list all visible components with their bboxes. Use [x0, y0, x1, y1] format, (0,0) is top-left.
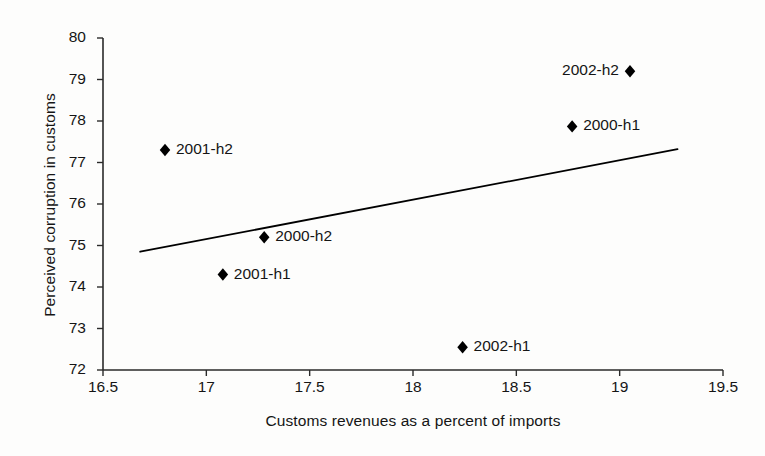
data-point-label-2000-h1: 2000-h1 [583, 116, 640, 134]
data-point-marker-2000-h1[interactable] [567, 120, 578, 132]
data-point-label-2001-h2: 2001-h2 [176, 140, 233, 158]
scatter-chart: Perceived corruption in customs Customs … [0, 0, 765, 456]
data-point-marker-2002-h2[interactable] [625, 65, 636, 77]
trendline [140, 149, 677, 252]
data-point-marker-2000-h2[interactable] [259, 231, 270, 243]
data-point-marker-2001-h1[interactable] [218, 268, 229, 280]
plot-area [0, 0, 765, 456]
data-point-label-2002-h2: 2002-h2 [562, 61, 619, 79]
data-point-label-2000-h2: 2000-h2 [275, 227, 332, 245]
data-point-label-2002-h1: 2002-h1 [474, 337, 531, 355]
data-point-marker-2002-h1[interactable] [457, 341, 468, 353]
data-point-label-2001-h1: 2001-h1 [234, 265, 291, 283]
data-point-marker-2001-h2[interactable] [160, 144, 171, 156]
